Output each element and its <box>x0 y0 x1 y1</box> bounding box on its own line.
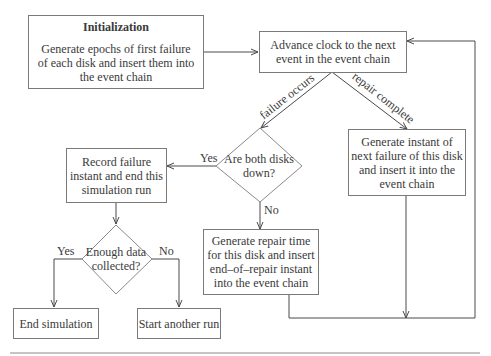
advance-line-1: Advance clock to the next <box>270 38 395 52</box>
generate-failure-box: Generate instant of next failure of this… <box>348 129 466 196</box>
init-title: Initialization <box>83 20 149 34</box>
decision-both-disks-down: Are both disks down? <box>216 152 302 180</box>
edge-enough-yes <box>54 259 82 307</box>
label-enough-yes: Yes <box>57 244 74 258</box>
record-line-1: Record failure <box>82 155 151 169</box>
both-down-line-1: Are both disks <box>216 152 302 166</box>
init-box: Initialization Generate epochs of first … <box>28 15 204 89</box>
edge-enough-no <box>152 259 179 307</box>
gen-repair-line-4: into the event chain <box>214 276 308 290</box>
record-line-2: instant and end this <box>70 169 163 183</box>
generate-repair-box: Generate repair time for this disk and i… <box>203 229 319 295</box>
gen-fail-line-2: next failure of this disk <box>351 149 462 163</box>
start-another-run-label: Start another run <box>139 317 220 331</box>
enough-line-2: collected? <box>80 259 152 273</box>
gen-fail-line-3: and insert it into the <box>359 163 455 177</box>
gen-repair-line-1: Generate repair time <box>212 234 311 248</box>
end-simulation-box: End simulation <box>13 308 99 339</box>
init-line-3: the event chain <box>80 70 153 84</box>
label-both-yes: Yes <box>200 151 217 165</box>
gen-repair-line-3: end–of–repair instant <box>210 262 312 276</box>
end-simulation-label: End simulation <box>20 317 93 331</box>
start-another-run-box: Start another run <box>137 308 221 339</box>
record-line-3: simulation run <box>82 183 152 197</box>
label-both-no: No <box>264 203 279 217</box>
both-down-line-2: down? <box>216 166 302 180</box>
init-line-2: of each disk and insert them into <box>38 56 195 70</box>
gen-fail-line-1: Generate instant of <box>361 135 452 149</box>
init-line-1: Generate epochs of first failure <box>41 42 190 56</box>
record-failure-box: Record failure instant and end this simu… <box>66 148 167 203</box>
gen-repair-line-2: for this disk and insert <box>207 248 314 262</box>
advance-line-2: event in the event chain <box>276 52 390 66</box>
decision-enough-data: Enough data collected? <box>80 245 152 273</box>
label-enough-no: No <box>159 244 174 258</box>
advance-clock-box: Advance clock to the next event in the e… <box>259 31 407 73</box>
enough-line-1: Enough data <box>80 245 152 259</box>
gen-fail-line-4: event chain <box>380 177 435 191</box>
